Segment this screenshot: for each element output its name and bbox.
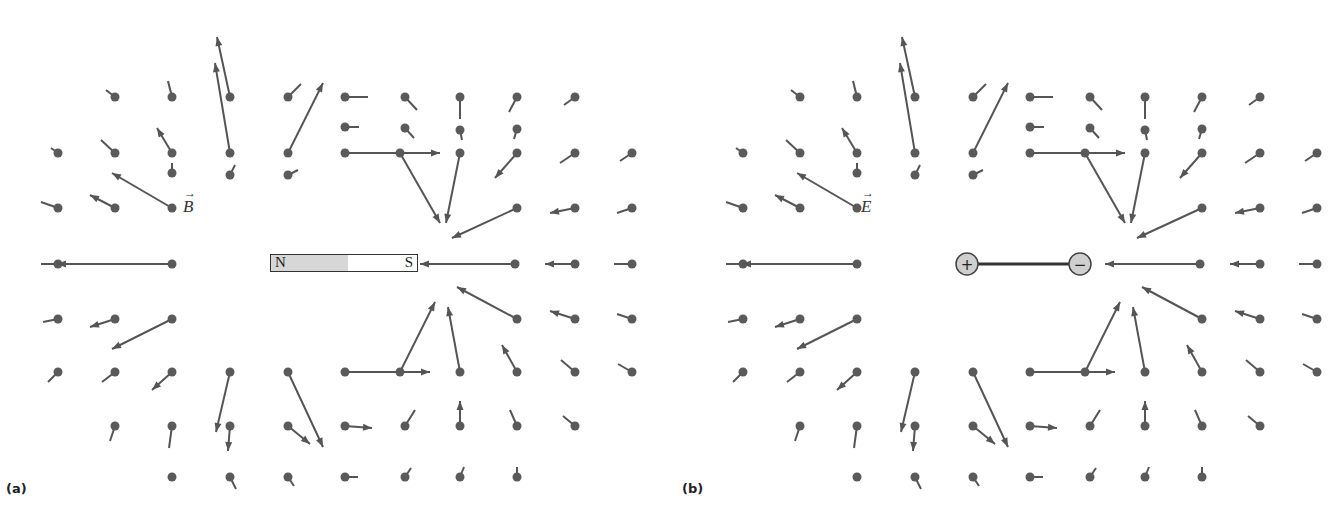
field-vector <box>1246 360 1265 377</box>
sample-point-dot <box>911 93 920 102</box>
sample-point-dot <box>456 149 465 158</box>
sample-point-dot <box>1026 123 1035 132</box>
sample-point-dot <box>853 93 862 102</box>
sample-point-dot <box>513 149 522 158</box>
sample-point-dot <box>1141 126 1150 135</box>
field-vector <box>797 315 862 350</box>
field-vector <box>775 195 805 213</box>
field-vector <box>1105 260 1205 269</box>
field-vector <box>502 345 522 377</box>
sample-point-dot <box>1141 422 1150 431</box>
sample-point-dot <box>111 422 120 431</box>
field-vector <box>969 422 996 445</box>
sample-point-dot <box>1086 124 1095 133</box>
sample-point-dot <box>1198 368 1207 377</box>
sample-point-dot <box>168 204 177 213</box>
field-vector <box>168 473 177 482</box>
arrowhead-icon <box>898 63 905 72</box>
arrowhead-icon <box>545 261 554 268</box>
sample-point-dot <box>571 93 580 102</box>
vector-arrow-accent-icon: → <box>184 186 196 201</box>
field-vector <box>1141 93 1150 120</box>
field-vector <box>51 148 63 158</box>
arrowhead-icon <box>1235 310 1245 317</box>
field-vector <box>1141 467 1150 482</box>
sample-point-dot <box>226 149 235 158</box>
arrowhead-icon <box>457 401 464 410</box>
field-vector <box>1230 260 1265 269</box>
sample-point-dot <box>853 169 862 178</box>
field-vector <box>1026 368 1116 377</box>
sample-point-dot <box>628 260 637 269</box>
sample-point-dot <box>513 204 522 213</box>
field-vector <box>157 128 177 158</box>
field-vector <box>509 93 522 113</box>
field-vector <box>284 84 302 102</box>
field-vector <box>513 467 522 482</box>
field-vector <box>284 368 324 448</box>
sample-point-dot <box>1081 368 1090 377</box>
sample-point-dot <box>853 473 862 482</box>
sample-point-dot <box>456 93 465 102</box>
sample-point-dot <box>111 368 120 377</box>
sample-point-dot <box>1026 149 1035 158</box>
sample-point-dot <box>796 149 805 158</box>
field-vector <box>168 81 177 102</box>
sample-point-dot <box>969 368 978 377</box>
sample-point-dot <box>168 260 177 269</box>
arrowhead-icon <box>1142 287 1152 294</box>
sample-point-dot <box>1198 204 1207 213</box>
field-vector <box>1026 123 1045 132</box>
south-pole-label: S <box>405 254 413 271</box>
sample-point-dot <box>571 149 580 158</box>
field-vector <box>795 422 805 442</box>
sample-point-dot <box>1313 368 1322 377</box>
field-vector <box>457 287 522 324</box>
sample-point-dot <box>1026 422 1035 431</box>
field-vector <box>1235 204 1265 215</box>
field-vector <box>1026 473 1044 482</box>
sample-point-dot <box>571 422 580 431</box>
arrowhead-icon <box>1131 307 1138 316</box>
field-vector <box>456 401 465 431</box>
field-vector <box>1235 310 1265 323</box>
sample-point-dot <box>1313 315 1322 324</box>
field-vector <box>1248 416 1265 431</box>
field-vector <box>284 170 299 180</box>
sample-point-dot <box>571 368 580 377</box>
field-vector <box>1081 149 1126 224</box>
sample-point-dot <box>1196 260 1205 269</box>
arrowhead-icon <box>1001 437 1008 447</box>
dipole: + − <box>956 253 1091 275</box>
field-vector <box>341 93 369 102</box>
arrowhead-icon <box>502 345 509 355</box>
arrowhead-icon <box>1117 213 1125 223</box>
field-vector <box>853 422 862 449</box>
field-vector <box>90 315 120 328</box>
field-vector <box>1026 422 1058 431</box>
arrowhead-icon <box>316 437 323 447</box>
field-vector <box>401 468 412 482</box>
sample-point-dot <box>911 368 920 377</box>
sample-point-dot <box>628 149 637 158</box>
sample-point-dot <box>168 368 177 377</box>
sample-point-dot <box>168 149 177 158</box>
field-vector <box>969 368 1009 448</box>
arrowhead-icon <box>213 63 220 72</box>
sample-point-dot <box>111 315 120 324</box>
field-vector <box>1305 149 1322 162</box>
field-vector <box>495 149 522 179</box>
field-vector <box>1086 124 1100 139</box>
field-vector <box>1137 204 1207 239</box>
field-vector <box>564 93 580 106</box>
field-vector <box>853 163 862 178</box>
sample-point-dot <box>911 149 920 158</box>
arrowhead-icon <box>842 128 850 138</box>
field-vector <box>284 473 295 487</box>
sample-point-dot <box>396 368 405 377</box>
arrowhead-icon <box>157 128 165 138</box>
sample-point-dot <box>1086 422 1095 431</box>
sample-point-dot <box>1256 315 1265 324</box>
sample-point-dot <box>1026 368 1035 377</box>
arrowhead-icon <box>1105 261 1114 268</box>
